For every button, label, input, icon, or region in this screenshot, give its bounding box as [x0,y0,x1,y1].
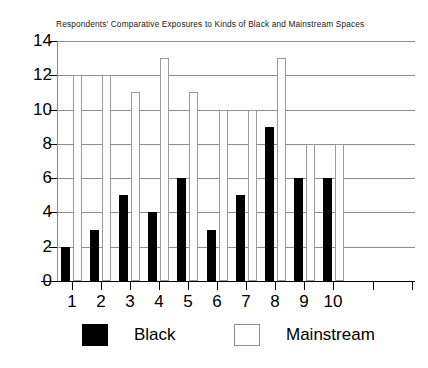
bar-mainstream [73,75,82,281]
bar-mainstream [277,58,286,281]
x-axis-tick-label: 10 [313,292,353,312]
x-axis-tick-mark [246,282,247,290]
bar-group [119,41,140,281]
x-axis-tick-mark [159,282,160,290]
legend-swatch-mainstream-icon [234,324,260,346]
legend-entry-black: Black [82,324,176,346]
x-axis-tick-mark [304,282,305,290]
bar-group [265,41,286,281]
bar-mainstream [306,144,315,281]
chart-legend: Black Mainstream [0,324,428,358]
bar-black [119,195,128,281]
x-axis-tick-mark [72,282,73,290]
x-axis-tick-mark [101,282,102,290]
y-axis-tick-mark [49,212,57,213]
bar-group [148,41,169,281]
bar-mainstream [248,110,257,281]
bar-black [207,230,216,281]
bar-group [236,41,257,281]
bar-mainstream [189,92,198,281]
chart-title: Respondents' Comparative Exposures to Ki… [56,19,396,29]
y-axis-tick-mark [49,178,57,179]
bar-mainstream [131,92,140,281]
x-axis-tick-mark-unlabeled [373,282,374,290]
bar-black [294,178,303,281]
x-axis-tick-labels: 12345678910 [0,292,428,314]
x-axis-tick-marks [0,282,428,291]
bar-group [177,41,198,281]
bar-group [207,41,228,281]
y-axis-tick-mark [49,41,57,42]
bar-group [323,41,344,281]
x-axis-tick-mark [217,282,218,290]
x-axis-tick-mark [275,282,276,290]
bar-black [90,230,99,281]
legend-label-mainstream: Mainstream [286,324,375,346]
y-axis-spine [57,41,58,282]
y-axis-tick-mark [49,75,57,76]
bar-black [236,195,245,281]
bar-black [177,178,186,281]
legend-entry-mainstream: Mainstream [234,324,375,346]
bar-group [90,41,111,281]
bar-mainstream [160,58,169,281]
bar-mainstream [335,144,344,281]
y-axis-tick-marks [0,41,57,281]
y-axis-tick-mark [49,110,57,111]
bar-chart: Respondents' Comparative Exposures to Ki… [0,0,428,368]
bar-black [61,247,70,281]
bar-mainstream [102,75,111,281]
legend-swatch-black-icon [82,324,108,346]
y-axis-tick-mark [49,144,57,145]
x-axis-tick-mark [130,282,131,290]
legend-label-black: Black [134,324,176,346]
x-axis-tick-mark [333,282,334,290]
y-axis-tick-mark [49,247,57,248]
bar-mainstream [219,110,228,281]
bar-group [294,41,315,281]
x-axis-tick-mark [188,282,189,290]
plot-area [57,41,415,281]
bar-black [148,212,157,281]
bar-group [61,41,82,281]
bar-black [323,178,332,281]
bar-black [265,127,274,281]
x-axis-tick-mark-unlabeled [412,282,413,290]
